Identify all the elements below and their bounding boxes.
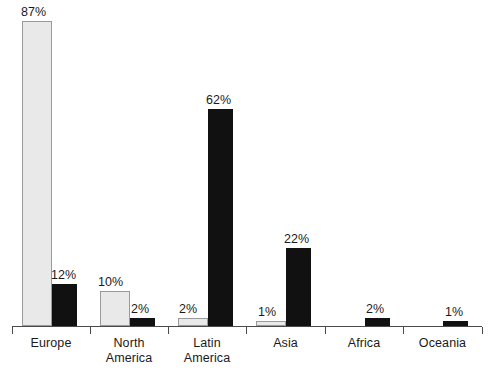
x-axis-label-north-america-line-1: North xyxy=(90,336,168,351)
x-axis-label-europe-line-1: Europe xyxy=(12,336,90,351)
bar-value-north-america-dark: 2% xyxy=(131,302,149,316)
axis-tick-1 xyxy=(90,327,91,334)
bar-value-europe-dark: 12% xyxy=(51,268,76,282)
axis-tick-0 xyxy=(12,327,13,334)
bar-value-asia-dark: 22% xyxy=(284,232,309,246)
axis-tick-4 xyxy=(325,327,326,334)
bar-europe-light xyxy=(22,21,52,326)
axis-tick-5 xyxy=(403,327,404,334)
bar-value-oceania-dark: 1% xyxy=(445,305,463,319)
x-axis-label-latin-america-line-1: Latin xyxy=(168,336,246,351)
bar-value-north-america-light: 10% xyxy=(98,275,123,289)
x-axis-label-latin-america: Latin America xyxy=(168,336,246,366)
x-axis-line xyxy=(12,326,482,327)
bar-value-latin-america-dark: 62% xyxy=(206,93,231,107)
bar-value-europe-light: 87% xyxy=(21,5,46,19)
x-axis-label-asia-line-1: Asia xyxy=(246,336,325,351)
bar-latin-america-light xyxy=(178,318,208,326)
axis-tick-6 xyxy=(482,327,483,334)
x-axis-label-oceania-line-1: Oceania xyxy=(403,336,482,351)
x-axis-label-north-america: North America xyxy=(90,336,168,366)
bar-value-africa-dark: 2% xyxy=(366,302,384,316)
plot-area: 87% 12% 10% 2% 2% 62% 1% 22% xyxy=(0,0,493,327)
bar-chart: 87% 12% 10% 2% 2% 62% 1% 22% xyxy=(0,0,493,374)
bar-group-africa: 2% xyxy=(325,0,403,327)
bar-group-europe: 87% 12% xyxy=(12,0,90,327)
bar-north-america-dark xyxy=(130,318,155,326)
bar-value-latin-america-light: 2% xyxy=(179,302,197,316)
bar-group-latin-america: 2% 62% xyxy=(168,0,246,327)
bar-north-america-light xyxy=(100,291,130,326)
bar-group-oceania: 1% xyxy=(403,0,482,327)
x-axis-label-north-america-line-2: America xyxy=(90,351,168,366)
bar-group-asia: 1% 22% xyxy=(246,0,325,327)
x-axis-label-europe: Europe xyxy=(12,336,90,351)
axis-tick-3 xyxy=(246,327,247,334)
bar-europe-dark xyxy=(52,284,77,326)
x-axis-label-africa: Africa xyxy=(325,336,403,351)
x-axis-label-africa-line-1: Africa xyxy=(325,336,403,351)
bar-asia-dark xyxy=(286,248,311,326)
bar-latin-america-dark xyxy=(208,109,233,326)
bar-africa-dark xyxy=(365,318,390,326)
axis-tick-2 xyxy=(168,327,169,334)
bar-value-asia-light: 1% xyxy=(258,305,276,319)
x-axis-label-oceania: Oceania xyxy=(403,336,482,351)
bar-group-north-america: 10% 2% xyxy=(90,0,168,327)
x-axis-label-asia: Asia xyxy=(246,336,325,351)
x-axis-label-latin-america-line-2: America xyxy=(168,351,246,366)
